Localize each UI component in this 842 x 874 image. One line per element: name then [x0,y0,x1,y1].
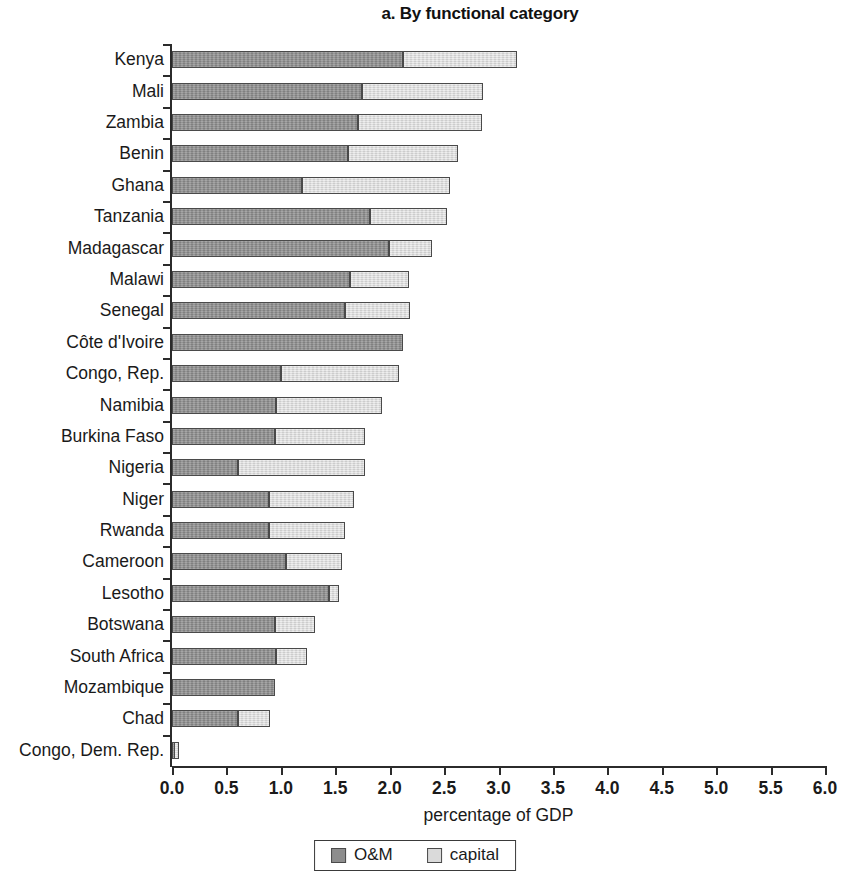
x-axis-title: percentage of GDP [172,805,825,826]
y-axis-tick [163,44,172,46]
category-label: Benin [0,143,164,164]
bar-segment-capital [286,553,342,570]
bar-segment-om [172,428,275,445]
legend-item: O&M [331,845,393,865]
bar-segment-capital [370,208,447,225]
x-axis-tick-label: 5.0 [686,778,746,799]
x-axis-tick-label: 5.5 [741,778,801,799]
x-axis-tick [335,766,337,775]
category-label: Ghana [0,175,164,196]
x-axis-tick-label: 6.0 [795,778,842,799]
x-axis-tick [281,766,283,775]
bar-segment-om [172,208,370,225]
category-label: Kenya [0,49,164,70]
x-axis-tick [607,766,609,775]
category-label: Nigeria [0,457,164,478]
legend-swatch-cap [427,848,442,863]
bar-segment-om [172,522,269,539]
y-axis-tick [163,672,172,674]
x-axis-tick-label: 4.5 [632,778,692,799]
bar-segment-capital [403,51,517,68]
y-axis-tick [163,170,172,172]
chart-title: a. By functional category [0,4,830,24]
y-axis-tick [163,75,172,77]
x-axis-tick-label: 1.0 [251,778,311,799]
category-label: Zambia [0,112,164,133]
bar-segment-om [172,491,269,508]
bar-segment-capital [302,177,450,194]
category-label: Congo, Rep. [0,363,164,384]
x-axis-tick-label: 2.5 [414,778,474,799]
legend-label: capital [450,845,499,865]
bar-segment-capital [350,271,409,288]
x-axis-tick [499,766,501,775]
y-axis-tick [163,421,172,423]
bar-segment-om [172,83,362,100]
x-axis-tick-label: 2.0 [360,778,420,799]
x-axis-tick-label: 4.0 [577,778,637,799]
y-axis-tick [163,327,172,329]
category-label: Tanzania [0,206,164,227]
bar-segment-om [172,585,329,602]
plot-area: 0.00.51.01.52.02.53.03.54.04.55.05.56.0 [172,44,825,766]
bar-segment-om [172,145,348,162]
bar-segment-capital [348,145,458,162]
bar-segment-om [172,271,350,288]
bar-segment-om [172,240,389,257]
bar-segment-capital [276,648,306,665]
category-label: Mali [0,81,164,102]
x-axis-tick [390,766,392,775]
bar-segment-capital [345,302,410,319]
x-axis-tick [716,766,718,775]
bar-segment-capital [174,742,178,759]
category-label: Rwanda [0,520,164,541]
x-axis-tick-label: 3.0 [469,778,529,799]
y-axis-tick [163,578,172,580]
bar-segment-capital [389,240,433,257]
bar-segment-capital [276,397,382,414]
x-axis-tick-label: 0.5 [196,778,256,799]
x-axis-tick [825,766,827,775]
legend-item: capital [427,845,499,865]
y-axis-tick [163,201,172,203]
y-axis-tick [163,264,172,266]
y-axis-tick [163,138,172,140]
y-axis-tick [163,546,172,548]
category-label: Senegal [0,300,164,321]
y-axis-tick [163,515,172,517]
bar-segment-om [172,114,358,131]
y-axis-tick [163,735,172,737]
bar-segment-capital [238,710,270,727]
bar-segment-om [172,334,403,351]
category-label: Namibia [0,395,164,416]
y-axis-tick [163,358,172,360]
category-label: Cameroon [0,551,164,572]
x-axis-tick [771,766,773,775]
category-label: Malawi [0,269,164,290]
bar-segment-om [172,365,281,382]
y-axis-tick [163,389,172,391]
x-axis-tick [553,766,555,775]
category-label: Congo, Dem. Rep. [0,740,164,761]
bar-segment-om [172,51,403,68]
bar-segment-om [172,648,276,665]
category-label: Lesotho [0,583,164,604]
x-axis-tick-label: 0.0 [142,778,202,799]
chart-legend: O&Mcapital [314,840,516,871]
bar-segment-om [172,397,276,414]
legend-swatch-om [331,848,346,863]
bar-segment-om [172,553,286,570]
y-axis-tick [163,609,172,611]
y-axis-tick [163,107,172,109]
category-label: South Africa [0,646,164,667]
bar-segment-capital [275,428,364,445]
bar-segment-capital [281,365,400,382]
y-axis-tick [163,232,172,234]
x-axis-tick-label: 3.5 [523,778,583,799]
category-label: Madagascar [0,238,164,259]
x-axis-tick [226,766,228,775]
legend-label: O&M [354,845,393,865]
category-label: Niger [0,489,164,510]
category-label: Côte d'Ivoire [0,332,164,353]
bar-segment-capital [358,114,482,131]
